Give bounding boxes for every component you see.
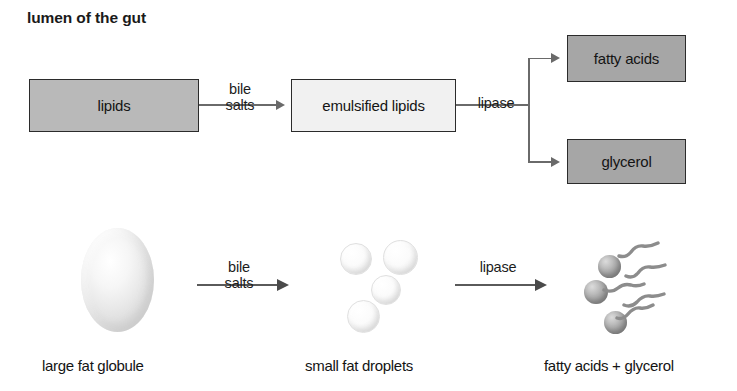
condition-bile-salts-bottom: bile salts [203, 259, 275, 291]
condition-lipase-top-line1: lipase [465, 95, 527, 111]
condition-bile-salts-top-line2: salts [206, 97, 274, 113]
flow-box-lipids-label: lipids [98, 97, 131, 114]
condition-lipase-top: lipase [465, 95, 527, 111]
connector-fork-vertical [528, 58, 530, 162]
small-fat-droplet [347, 300, 380, 333]
illustration-arrow-lipase [455, 284, 537, 286]
condition-bile-salts-bottom-line1: bile [203, 259, 275, 275]
caption-fatty-acids-glycerol: fatty acids + glycerol [544, 357, 674, 374]
flow-box-emulsified-lipids-label: emulsified lipids [322, 97, 424, 114]
fatty-acid-chain-icon [617, 240, 661, 260]
small-fat-droplet [340, 243, 372, 275]
flow-box-fatty-acids: fatty acids [567, 35, 686, 82]
condition-bile-salts-top-line1: bile [206, 81, 274, 97]
flow-box-glycerol-label: glycerol [601, 153, 651, 170]
arrowhead-to-fatty-acids-icon [551, 53, 560, 63]
flow-box-fatty-acids-label: fatty acids [594, 50, 659, 67]
condition-lipase-bottom: lipase [462, 259, 534, 275]
condition-bile-salts-top: bile salts [206, 81, 274, 113]
arrowhead-bile-salts-icon [277, 279, 289, 291]
fatty-acid-chain-icon [615, 302, 655, 322]
small-fat-droplet [371, 275, 401, 305]
condition-bile-salts-bottom-line2: salts [203, 275, 275, 291]
flow-box-emulsified-lipids: emulsified lipids [291, 79, 456, 132]
large-fat-globule-shape [81, 228, 154, 332]
caption-large-fat-globule: large fat globule [42, 357, 144, 374]
arrowhead-to-glycerol-icon [551, 157, 560, 167]
arrowhead-lipase-icon [535, 279, 547, 291]
small-fat-droplet [383, 240, 418, 275]
flow-box-lipids: lipids [29, 79, 199, 132]
caption-small-fat-droplets: small fat droplets [305, 357, 413, 374]
condition-lipase-bottom-line1: lipase [462, 259, 534, 275]
arrowhead-to-emulsified-icon [276, 100, 285, 110]
diagram-canvas: lumen of the gut lipids bile salts emuls… [0, 0, 737, 391]
flow-box-glycerol: glycerol [567, 139, 686, 184]
page-title: lumen of the gut [27, 9, 146, 27]
